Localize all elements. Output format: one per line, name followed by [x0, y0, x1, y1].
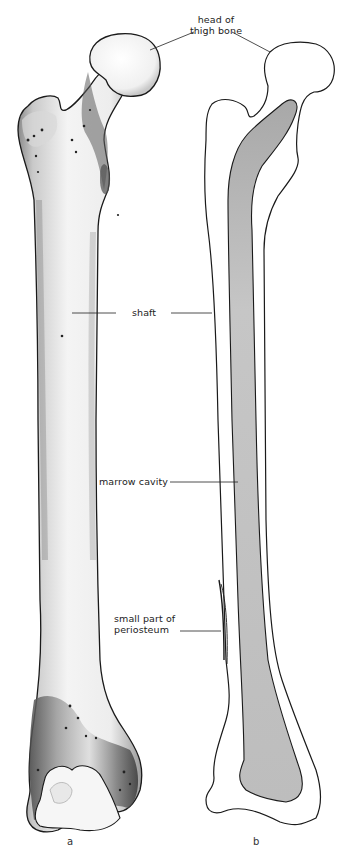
label-periosteum-line1: small part of: [114, 613, 175, 624]
label-marrow-cavity: marrow cavity: [99, 476, 168, 487]
label-head-of-thigh-bone: head of thigh bone: [186, 14, 246, 36]
panel-letter-a: a: [67, 836, 73, 847]
label-shaft: shaft: [132, 307, 156, 318]
femur-b-drawing: [205, 42, 335, 825]
label-head-line2: thigh bone: [186, 25, 246, 36]
panel-letter-b: b: [253, 836, 259, 847]
label-periosteum: small part of periosteum: [114, 613, 175, 635]
femur-a-drawing: [18, 34, 160, 832]
label-periosteum-line2: periosteum: [114, 624, 175, 635]
label-head-line1: head of: [186, 14, 246, 25]
femur-illustration: [0, 0, 348, 856]
